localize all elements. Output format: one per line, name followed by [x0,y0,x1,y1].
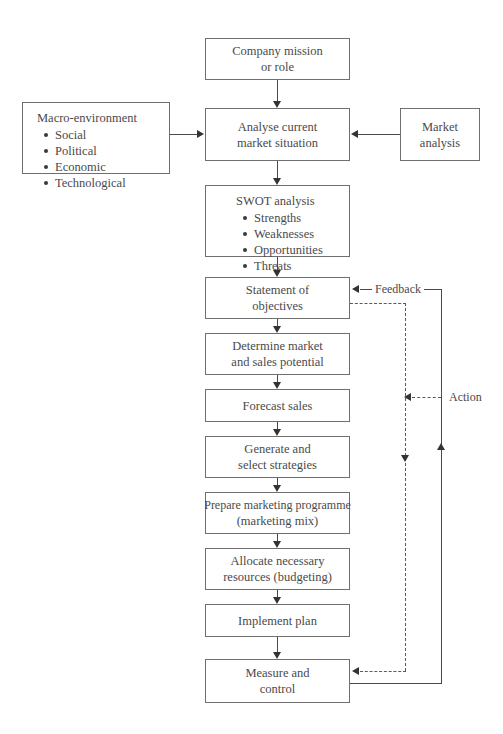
node-market-analysis-line1: Market [422,119,458,135]
action-label-dashed-connector [412,397,441,398]
action-return-dashed-line [360,671,406,672]
action-top-dashed-line [350,303,406,304]
node-company-mission-line2: or role [261,59,294,75]
node-company-mission-line1: Company mission [232,43,323,59]
connector-generate-to-prepare [277,478,278,485]
arrowhead-allocate-to-implement [273,597,281,604]
connector-determine-to-forecast [277,375,278,382]
node-swot-analysis: SWOT analysis Strengths Weaknesses Oppor… [205,185,350,257]
arrowhead-prepare-to-allocate [273,541,281,548]
node-generate-line1: Generate and [244,441,310,457]
feedback-return-line [350,683,442,684]
node-analyse-line2: market situation [237,135,318,151]
node-measure-line2: control [260,681,295,697]
swot-item-weaknesses: Weaknesses [254,226,349,242]
node-macro-list: Social Political Economic Technological [37,127,169,191]
node-prepare-line2: (marketing mix) [237,513,319,529]
arrowhead-statement-to-determine [273,326,281,333]
connector-allocate-to-implement [277,590,278,597]
arrowhead-forecast-to-generate [273,429,281,436]
feedback-vertical-line [441,289,442,683]
connector-statement-to-determine [277,319,278,326]
connector-implement-to-measure [277,637,278,652]
action-vertical-dashed-line [405,303,406,671]
connector-swot-to-statement [277,257,278,270]
action-label: Action [446,390,485,404]
connector-mission-to-analyse [277,80,278,101]
node-measure-line1: Measure and [245,665,309,681]
arrowhead-feedback-upward [437,443,445,450]
node-determine-line2: and sales potential [231,354,323,370]
node-market-analysis-line2: analysis [420,135,460,151]
node-implement-plan: Implement plan [205,604,350,637]
arrowhead-analyse-to-swot [273,178,281,185]
arrowhead-determine-to-forecast [273,382,281,389]
node-swot-list: Strengths Weaknesses Opportunities Threa… [236,210,349,274]
swot-item-strengths: Strengths [254,210,349,226]
arrowhead-macro-to-analyse [197,130,204,138]
node-macro-heading: Macro-environment [37,110,169,126]
node-implement-line1: Implement plan [238,613,317,629]
swot-item-opportunities: Opportunities [254,242,349,258]
arrowhead-feedback-into-statement [352,285,359,293]
feedback-label: Feedback [372,282,424,296]
connector-analyse-to-swot [277,161,278,178]
node-statement-line1: Statement of [246,282,310,298]
node-statement-line2: objectives [252,298,303,314]
arrowhead-action-downward [401,455,409,462]
node-allocate-line1: Allocate necessary [230,553,324,569]
arrowhead-action-into-measure [352,667,359,675]
node-allocate-resources: Allocate necessary resources (budgeting) [205,548,350,590]
node-forecast-sales: Forecast sales [205,389,350,422]
node-macro-environment: Macro-environment Social Political Econo… [22,102,170,174]
swot-item-threats: Threats [254,258,349,274]
connector-prepare-to-allocate [277,534,278,541]
node-company-mission: Company mission or role [205,38,350,80]
arrowhead-implement-to-measure [273,652,281,659]
connector-macro-to-analyse [170,134,198,135]
node-prepare-line1: Prepare marketing programme [204,497,351,513]
node-forecast-line1: Forecast sales [243,398,313,414]
node-measure-and-control: Measure and control [205,659,350,703]
node-analyse-current-market: Analyse current market situation [205,108,350,161]
node-determine-line1: Determine market [232,338,323,354]
node-market-analysis: Market analysis [400,108,480,161]
arrowhead-swot-to-statement [273,270,281,277]
node-generate-line2: select strategies [238,457,317,473]
node-allocate-line2: resources (budgeting) [223,569,332,585]
connector-forecast-to-generate [277,422,278,429]
flowchart-diagram: Company mission or role Analyse current … [0,0,503,734]
connector-market-analysis-to-analyse [358,134,400,135]
macro-item-economic: Economic [55,159,169,175]
node-swot-heading: SWOT analysis [236,193,349,209]
node-determine-market-potential: Determine market and sales potential [205,333,350,375]
arrowhead-generate-to-prepare [273,485,281,492]
macro-item-social: Social [55,127,169,143]
node-statement-of-objectives: Statement of objectives [205,277,350,319]
macro-item-technological: Technological [55,175,169,191]
arrowhead-action-into-dashed [404,393,411,401]
macro-item-political: Political [55,143,169,159]
node-prepare-marketing-programme: Prepare marketing programme (marketing m… [205,492,350,534]
node-analyse-line1: Analyse current [238,119,317,135]
arrowhead-market-analysis-to-analyse [351,130,358,138]
node-generate-select-strategies: Generate and select strategies [205,436,350,478]
arrowhead-mission-to-analyse [273,101,281,108]
